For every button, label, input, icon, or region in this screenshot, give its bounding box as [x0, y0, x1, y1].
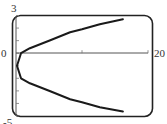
y-max-label: 3 [11, 2, 17, 14]
curve-series [17, 19, 123, 111]
x-origin-label: 0 [1, 47, 7, 59]
y-min-label: -5 [3, 116, 13, 124]
x-max-label: 20 [154, 47, 166, 59]
chart: 3 -5 0 20 [0, 0, 167, 124]
